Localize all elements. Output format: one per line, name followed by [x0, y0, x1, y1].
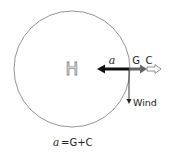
c-arrow-label: C	[146, 55, 153, 66]
g-arrow-label: G	[132, 55, 140, 66]
wind-label: Wind	[133, 97, 157, 108]
equation-rhs: =G+C	[61, 137, 93, 148]
equation: a =G+C	[53, 136, 93, 148]
high-pressure-label: H	[66, 59, 79, 79]
equation-lhs: a	[53, 136, 59, 148]
a-arrow-label: a	[109, 54, 116, 67]
diagram-canvas: H a G C Wind a =G+C	[0, 0, 172, 157]
